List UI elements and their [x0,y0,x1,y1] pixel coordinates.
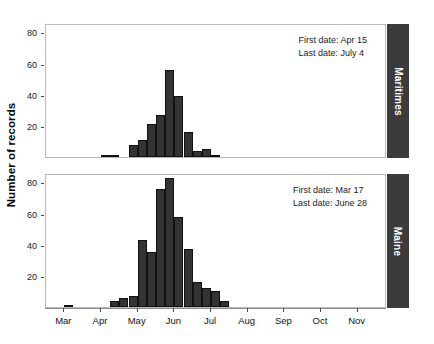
first-date-maritimes: First date: Apr 15 [298,34,367,47]
y-tick-label: 80 [13,179,37,188]
x-tick-label: May [128,315,146,326]
y-tick-label: 40 [13,241,37,250]
y-tick-mark [41,246,45,247]
y-tick-mark [41,96,45,97]
bar [119,298,128,307]
bar [220,301,229,307]
strip-inner-maine: Maine [387,174,409,308]
x-tick-label: Oct [313,315,328,326]
y-axis-maine: 20406080 [0,174,45,308]
x-axis: MarAprMayJunJulAugSepOctNov [45,308,386,342]
x-tick-label: Apr [93,315,108,326]
panel-maritimes: First date: Apr 15 Last date: July 4 [45,24,386,158]
first-date-maine: First date: Mar 17 [293,184,367,197]
y-tick-mark [41,277,45,278]
x-axis-line [45,308,386,309]
bar [64,305,73,307]
bar [184,132,193,157]
x-tick-label: Nov [348,315,365,326]
strip-label-maine: Maine [393,226,404,255]
x-tick-label: Mar [55,315,71,326]
bar [129,145,138,157]
x-tick-mark [320,308,321,312]
annotation-maritimes: First date: Apr 15 Last date: July 4 [298,34,367,59]
bar [156,189,165,307]
x-tick-label: Aug [238,315,255,326]
y-tick-mark [41,33,45,34]
bar [174,217,183,307]
x-tick-mark [247,308,248,312]
chart-figure: Number of records 20406080 20406080 Firs… [0,0,434,344]
x-tick-mark [137,308,138,312]
x-tick-label: Jun [166,315,181,326]
last-date-maritimes: Last date: July 4 [298,47,367,60]
y-axis-maritimes: 20406080 [0,24,45,158]
y-tick-label: 20 [13,272,37,281]
bar [156,115,165,157]
strip-maritimes: Maritimes [387,24,409,158]
bar [193,151,202,157]
bar [193,282,202,307]
panel-maine: First date: Mar 17 Last date: June 28 [45,174,386,308]
y-tick-mark [41,65,45,66]
x-tick-mark [283,308,284,312]
bar [147,124,156,157]
bar [110,155,119,157]
strip-maine: Maine [387,174,409,308]
bar [138,140,147,157]
bar [129,296,138,307]
annotation-maine: First date: Mar 17 Last date: June 28 [293,184,367,209]
bar [202,149,211,157]
bar [211,291,220,307]
x-tick-mark [173,308,174,312]
bar [165,70,174,157]
bar [211,155,220,157]
bar [147,252,156,307]
strip-inner-maritimes: Maritimes [387,24,409,158]
bar [184,249,193,307]
bar [110,301,119,307]
x-tick-mark [100,308,101,312]
y-tick-mark [41,127,45,128]
y-tick-mark [41,215,45,216]
bar [138,240,147,307]
y-tick-label: 40 [13,91,37,100]
last-date-maine: Last date: June 28 [293,197,367,210]
strip-label-maritimes: Maritimes [393,67,404,116]
y-tick-label: 80 [13,29,37,38]
bar [174,96,183,157]
x-tick-label: Jul [204,315,216,326]
bar [165,178,174,307]
bar [202,288,211,307]
y-tick-label: 20 [13,122,37,131]
x-tick-mark [210,308,211,312]
x-tick-mark [357,308,358,312]
y-tick-mark [41,183,45,184]
y-tick-label: 60 [13,60,37,69]
x-tick-label: Sep [275,315,292,326]
x-tick-mark [63,308,64,312]
y-tick-label: 60 [13,210,37,219]
bar [101,155,110,157]
